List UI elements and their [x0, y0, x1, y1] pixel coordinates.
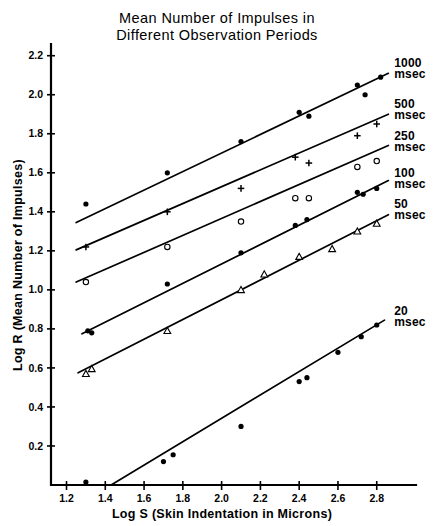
data-point-1000-msec-0	[83, 201, 88, 206]
fit-line-5	[111, 320, 384, 485]
data-point-100-msec-3	[238, 250, 243, 255]
y-tick-label-0.2: 0.2	[28, 440, 43, 452]
series-label-unit-4: msec	[394, 208, 426, 222]
series-label-20-msec: 20msec	[394, 304, 426, 329]
series-label-250-msec: 250msec	[394, 129, 426, 154]
x-tick-label-1.8: 1.8	[176, 492, 191, 504]
data-point-250-msec-5	[355, 164, 360, 169]
data-series-group	[76, 73, 388, 485]
data-point-250-msec-2	[238, 219, 243, 224]
data-point-500-msec-2	[238, 185, 245, 192]
series-label-unit-3: msec	[394, 177, 426, 191]
fit-line-3	[82, 181, 388, 334]
x-tick-label-2.2: 2.2	[253, 492, 268, 504]
series-label-500-msec: 500msec	[394, 97, 426, 122]
x-tick-labels: 1.21.41.61.82.02.22.42.62.8	[59, 492, 384, 504]
data-point-50-msec-5	[296, 253, 303, 259]
data-point-500-msec-5	[354, 132, 361, 139]
series-500-msec	[76, 114, 388, 250]
x-axis-title: Log S (Skin Indentation in Microns)	[112, 507, 332, 521]
series-label-50-msec: 50msec	[394, 197, 426, 222]
fit-line-2	[76, 145, 388, 282]
data-point-20-msec-3	[238, 424, 243, 429]
y-tick-label-2.0: 2.0	[28, 88, 43, 100]
data-point-1000-msec-4	[306, 114, 311, 119]
y-tick-label-1.8: 1.8	[28, 127, 43, 139]
x-tick-label-1.4: 1.4	[98, 492, 113, 504]
data-point-20-msec-1	[161, 459, 166, 464]
data-point-250-msec-1	[165, 244, 170, 249]
data-point-20-msec-6	[335, 350, 340, 355]
data-point-100-msec-5	[304, 217, 309, 222]
series-label-unit-1: msec	[394, 108, 426, 122]
data-point-50-msec-4	[261, 271, 268, 277]
x-tick-label-2.4: 2.4	[292, 492, 307, 504]
data-point-1000-msec-5	[355, 82, 360, 87]
data-point-1000-msec-1	[165, 170, 170, 175]
figure-container: Mean Number of Impulses in Different Obs…	[0, 0, 435, 526]
y-tick-labels: 0.20.40.60.81.01.21.41.61.82.02.2	[28, 49, 43, 451]
data-point-500-msec-4	[306, 160, 313, 167]
data-point-50-msec-6	[329, 245, 336, 251]
series-label-unit-5: msec	[394, 315, 426, 329]
data-point-100-msec-2	[165, 281, 170, 286]
series-250-msec	[76, 145, 388, 284]
data-point-20-msec-8	[374, 322, 379, 327]
y-axis-title: Log R (Mean Number of Impulses)	[11, 159, 25, 371]
data-point-250-msec-0	[83, 279, 88, 284]
data-point-1000-msec-7	[378, 75, 383, 80]
x-tick-label-2.6: 2.6	[331, 492, 346, 504]
data-point-1000-msec-6	[363, 92, 368, 97]
y-tick-label-1.0: 1.0	[28, 283, 43, 295]
x-tick-label-1.2: 1.2	[59, 492, 74, 504]
data-point-20-msec-5	[304, 375, 309, 380]
data-point-20-msec-2	[171, 452, 176, 457]
fit-line-1	[76, 114, 388, 250]
series-20-msec	[83, 320, 384, 485]
data-point-500-msec-6	[373, 121, 380, 128]
series-labels-group: 1000msec500msec250msec100msec50msec20mse…	[394, 56, 426, 329]
axis-spines	[51, 44, 416, 485]
series-100-msec	[82, 181, 388, 336]
y-tick-label-0.8: 0.8	[28, 322, 43, 334]
impulses-scatter-chart: Mean Number of Impulses in Different Obs…	[0, 0, 435, 526]
data-point-100-msec-4	[293, 223, 298, 228]
chart-title-line1: Mean Number of Impulses in	[119, 10, 315, 26]
data-point-1000-msec-3	[297, 110, 302, 115]
data-point-20-msec-7	[359, 334, 364, 339]
data-point-100-msec-7	[361, 192, 366, 197]
y-tick-label-1.4: 1.4	[28, 205, 43, 217]
axes	[51, 44, 416, 485]
data-point-100-msec-1	[89, 330, 94, 335]
series-label-unit-0: msec	[394, 67, 426, 81]
series-50-msec	[78, 215, 388, 377]
data-point-250-msec-6	[374, 158, 379, 163]
x-tick-label-1.6: 1.6	[137, 492, 152, 504]
series-label-unit-2: msec	[394, 140, 426, 154]
fit-line-0	[76, 73, 388, 222]
series-label-1000-msec: 1000msec	[394, 56, 426, 81]
data-point-100-msec-8	[374, 186, 379, 191]
data-point-20-msec-0	[83, 479, 88, 484]
data-point-20-msec-4	[297, 379, 302, 384]
y-tick-label-1.6: 1.6	[28, 166, 43, 178]
chart-title: Mean Number of Impulses in Different Obs…	[116, 10, 318, 43]
series-1000-msec	[76, 73, 388, 222]
chart-title-line2: Different Observation Periods	[116, 27, 318, 43]
data-point-1000-msec-2	[238, 139, 243, 144]
x-tick-label-2.8: 2.8	[369, 492, 384, 504]
series-label-100-msec: 100msec	[394, 166, 426, 191]
y-tick-label-0.6: 0.6	[28, 362, 43, 374]
data-point-250-msec-3	[293, 195, 298, 200]
fit-line-4	[78, 215, 388, 373]
y-tick-label-2.2: 2.2	[28, 49, 43, 61]
data-point-250-msec-4	[306, 195, 311, 200]
y-tick-label-1.2: 1.2	[28, 244, 43, 256]
x-tick-label-2.0: 2.0	[214, 492, 229, 504]
data-point-100-msec-6	[355, 190, 360, 195]
y-tick-label-0.4: 0.4	[28, 401, 43, 413]
